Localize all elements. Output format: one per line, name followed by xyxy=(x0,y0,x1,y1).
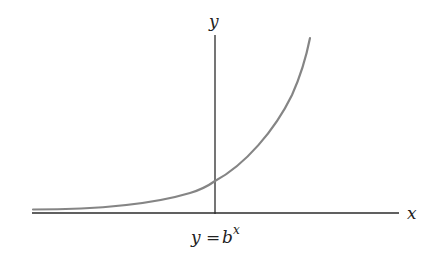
caption-equals: = xyxy=(206,227,220,247)
x-axis-label: x xyxy=(407,203,417,223)
caption-lhs: y xyxy=(190,227,201,247)
caption-base: b xyxy=(222,227,233,247)
y-axis-label: y xyxy=(208,11,219,31)
function-caption: y = b x xyxy=(190,223,240,247)
caption-exponent: x xyxy=(233,223,240,237)
exponential-curve xyxy=(33,38,310,210)
exponential-function-diagram: y x y = b x xyxy=(0,0,439,257)
